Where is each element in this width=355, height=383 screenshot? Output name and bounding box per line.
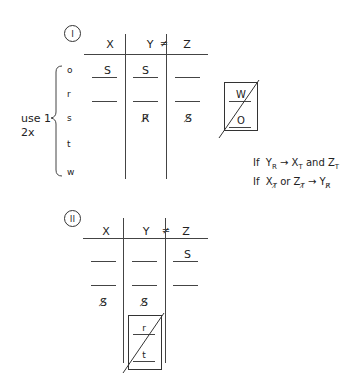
table2-blank-2-z — [173, 285, 198, 286]
table1-header-z: Z — [172, 38, 202, 51]
table1-cell-s-z: S̸ — [176, 112, 201, 125]
strike-line2-icon — [0, 0, 355, 383]
table2-header-z: Z — [171, 225, 201, 238]
table1-blank-r-y — [133, 101, 158, 102]
crossed-box-bottom-rule — [229, 127, 251, 128]
brace-note-line2: 2x — [21, 127, 35, 138]
table1-neq-symbol: ≠ — [158, 38, 170, 49]
table1-cell-s-y: R̸ — [133, 112, 158, 125]
table1-row-label-w: w — [67, 168, 74, 177]
crossed-box2-bottom-rule — [133, 361, 155, 362]
table1-brace-icon — [0, 0, 355, 383]
table1-blank-o-x — [92, 77, 117, 78]
crossed-box-bottom-letter: O — [226, 115, 256, 126]
table1-blank-r-x — [92, 101, 117, 102]
table2-blank-1-x — [91, 261, 116, 262]
table1-row-label-r: r — [67, 90, 71, 99]
crossed-box-top-rule — [229, 101, 251, 102]
table1-row-label-o: o — [67, 66, 73, 75]
table2-blank-2-x — [91, 285, 116, 286]
table2-divider-yz — [165, 218, 166, 363]
crossed-box-top-letter: W — [226, 89, 256, 100]
table1-cell-o-y: S — [133, 64, 158, 77]
strike-line-icon — [0, 0, 355, 383]
table2-divider-xy — [123, 218, 124, 363]
crossed-box2-bottom-letter: t — [129, 350, 159, 360]
table1-blank-o-y — [133, 77, 158, 78]
table2-cell-1-z: S — [175, 248, 200, 261]
crossed-box2-top-letter: r — [129, 323, 159, 333]
table1-cell-o-x: S — [95, 64, 120, 77]
table1-divider-yz — [166, 34, 167, 179]
table2-header-y: Y — [131, 225, 161, 238]
table2-cell-3-x: S̸ — [91, 296, 116, 309]
table1-row-label-s: s — [67, 114, 72, 123]
table2-blank-1-z — [173, 261, 198, 262]
table2-header-x: X — [91, 225, 121, 238]
table1-header-rule — [84, 54, 208, 55]
crossed-box2-top-rule — [133, 334, 155, 335]
table1-header-x: X — [95, 38, 125, 51]
table2-cell-3-y: S̸ — [132, 296, 157, 309]
table1-row-label-t: t — [67, 140, 71, 149]
table2-header-rule — [83, 238, 208, 239]
table1-number-label: I — [64, 25, 81, 42]
table2-number-label: II — [64, 210, 81, 227]
rule-2: If XT̸ or ZT̸ → YR̸ — [253, 177, 330, 190]
table1-blank-o-z — [175, 77, 200, 78]
table2-blank-2-y — [132, 285, 157, 286]
brace-note-line1: use 1 — [21, 113, 51, 124]
table1-blank-r-z — [175, 101, 200, 102]
table2-blank-1-y — [132, 261, 157, 262]
rule-1: If YR → XT and ZT — [253, 158, 339, 171]
table1-divider-xy — [125, 34, 126, 179]
